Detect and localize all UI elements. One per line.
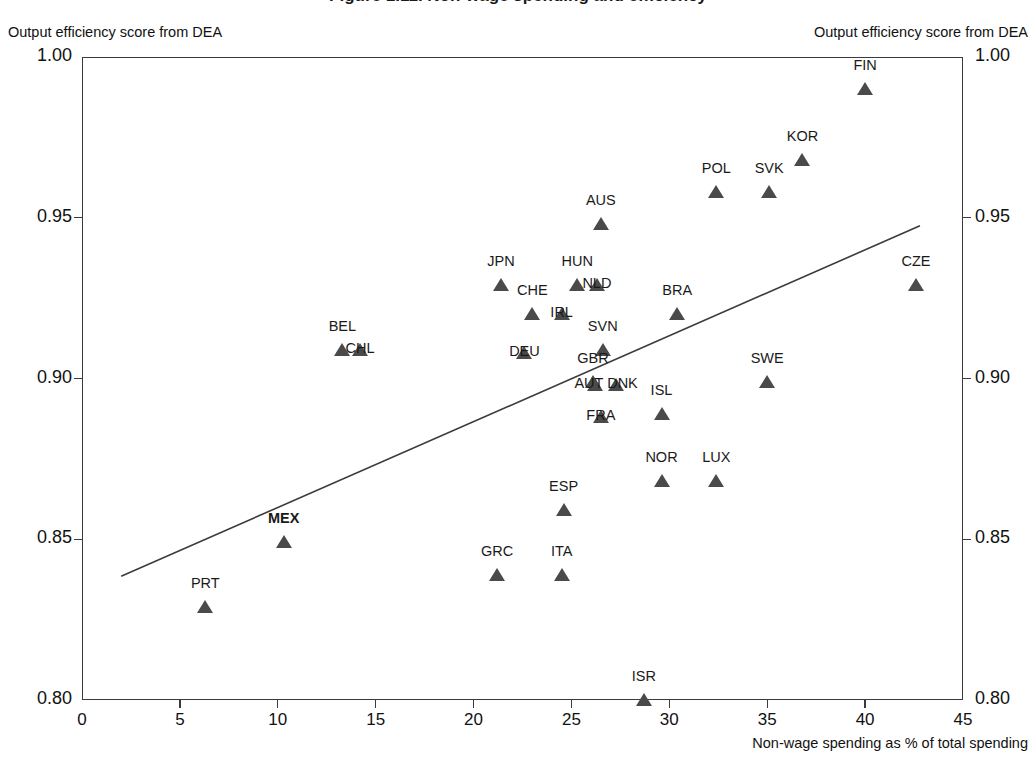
data-point-label: KOR [787,128,818,144]
data-point-label: ISR [632,668,656,684]
y-axis-label-left: Output efficiency score from DEA [8,24,222,40]
data-point-label: SVN [588,318,618,334]
data-point-marker [908,278,924,291]
data-point-label: AUT [574,375,603,391]
data-point-marker [759,375,775,388]
x-tick-mark [179,700,180,708]
y-tick-label-right: 0.90 [975,367,1010,388]
data-point-marker [276,535,292,548]
data-point-label: PRT [191,575,220,591]
y-tick-mark [74,539,82,540]
data-point-marker [761,185,777,198]
data-point-marker [493,278,509,291]
y-tick-label-right: 1.00 [975,45,1010,66]
data-point-marker [556,503,572,516]
x-tick-mark [473,700,474,708]
y-tick-label-right: 0.80 [975,688,1010,709]
data-point-marker [708,185,724,198]
plot-frame [82,57,963,700]
chart-canvas: Figure 1.11. Non-wage spending and effic… [0,0,1036,765]
data-point-marker [654,407,670,420]
x-tick-mark [767,700,768,708]
x-tick-mark [669,700,670,708]
data-point-marker [524,307,540,320]
y-axis-label-right: Output efficiency score from DEA [814,24,1028,40]
y-tick-mark [963,378,971,379]
data-point-label: ISL [651,382,673,398]
y-tick-label-left: 0.90 [14,367,72,388]
data-point-label: NLD [582,275,611,291]
y-tick-mark [963,217,971,218]
x-tick-mark [571,700,572,708]
x-tick-mark [277,700,278,708]
data-point-label: BRA [662,282,692,298]
x-tick-label: 25 [562,710,581,730]
y-tick-label-left: 1.00 [14,45,72,66]
data-point-marker [857,82,873,95]
x-tick-label: 10 [268,710,287,730]
data-point-label: FRA [586,407,615,423]
x-tick-label: 30 [660,710,679,730]
data-point-label: CZE [902,253,931,269]
data-point-label: ITA [551,543,572,559]
data-point-label: AUS [586,192,616,208]
data-point-label: GBR [577,350,608,366]
data-point-marker [197,600,213,613]
data-point-label: NOR [645,449,677,465]
y-tick-mark [74,378,82,379]
x-tick-label: 35 [758,710,777,730]
data-point-label: POL [702,160,731,176]
data-point-label: ESP [549,478,578,494]
x-tick-label: 45 [954,710,973,730]
data-point-label: BEL [329,318,356,334]
data-point-label: JPN [487,253,514,269]
data-point-label: HUN [562,253,593,269]
data-point-marker [554,568,570,581]
data-point-label: IRL [550,304,573,320]
data-point-marker [593,217,609,230]
data-point-label: SVK [755,160,784,176]
data-point-marker [708,474,724,487]
data-point-label: DNK [607,375,638,391]
data-point-label: DEU [509,343,540,359]
x-tick-mark [864,700,865,708]
data-point-label: SWE [751,350,784,366]
y-tick-label-left: 0.80 [14,688,72,709]
y-tick-label-left: 0.95 [14,206,72,227]
data-point-marker [669,307,685,320]
y-tick-label-left: 0.85 [14,527,72,548]
data-point-marker [636,693,652,706]
x-tick-label: 40 [856,710,875,730]
data-point-marker [794,153,810,166]
chart-title: Figure 1.11. Non-wage spending and effic… [0,0,1036,6]
x-tick-mark [375,700,376,708]
x-tick-label: 15 [366,710,385,730]
x-axis-label: Non-wage spending as % of total spending [752,735,1028,751]
data-point-label: LUX [702,449,730,465]
data-point-label: GRC [481,543,513,559]
y-tick-mark [963,539,971,540]
data-point-label: CHL [345,340,374,356]
x-tick-label: 5 [175,710,184,730]
data-point-label: FIN [853,57,876,73]
data-point-marker [654,474,670,487]
y-tick-mark [74,217,82,218]
x-tick-label: 20 [464,710,483,730]
data-point-label: CHE [517,282,548,298]
data-point-marker [489,568,505,581]
x-tick-label: 0 [77,710,86,730]
y-tick-label-right: 0.95 [975,206,1010,227]
y-tick-label-right: 0.85 [975,527,1010,548]
data-point-label: MEX [268,510,299,526]
